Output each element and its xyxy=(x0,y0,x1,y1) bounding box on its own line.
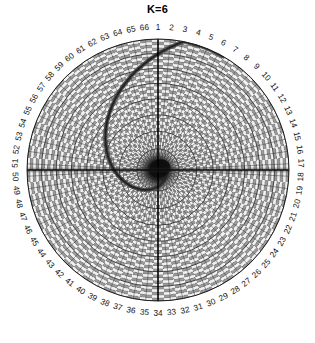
angular-tick-label: 2 xyxy=(169,23,175,32)
angular-tick-label: 17 xyxy=(296,158,305,168)
angular-tick-label: 12 xyxy=(276,92,289,105)
angular-tick-label: 29 xyxy=(217,291,230,303)
angular-tick-label: 56 xyxy=(28,92,41,105)
angular-tick-label: 43 xyxy=(44,257,57,270)
angular-tick-label: 57 xyxy=(35,80,48,93)
angular-tick-label: 52 xyxy=(11,144,21,155)
angular-tick-label: 30 xyxy=(205,297,217,309)
angular-tick-label: 6 xyxy=(219,38,228,48)
angular-tick-label: 39 xyxy=(86,291,99,303)
angular-tick-label: 50 xyxy=(10,172,19,182)
angular-tick-label: 64 xyxy=(112,27,124,38)
angular-tick-label: 62 xyxy=(86,37,99,49)
angular-tick-label: 65 xyxy=(126,24,137,35)
angular-tick-label: 55 xyxy=(22,104,34,116)
angular-tick-label: 63 xyxy=(99,31,111,43)
angular-tick-label: 46 xyxy=(22,223,34,235)
angular-tick-label: 40 xyxy=(74,284,87,297)
angular-tick-label: 66 xyxy=(139,23,149,33)
angular-tick-label: 42 xyxy=(53,267,66,280)
angular-tick-label: 24 xyxy=(268,246,281,259)
angular-tick-label: 31 xyxy=(193,301,205,312)
angular-tick-label: 9 xyxy=(252,62,262,72)
angular-tick-label: 49 xyxy=(11,185,21,196)
angular-tick-label: 14 xyxy=(287,117,299,129)
angular-tick-label: 37 xyxy=(112,302,124,313)
angular-tick-label: 5 xyxy=(207,32,215,42)
angular-tick-label: 32 xyxy=(180,305,191,316)
angular-tick-label: 20 xyxy=(292,198,303,209)
angular-tick-label: 11 xyxy=(268,81,281,94)
angular-tick-label: 36 xyxy=(126,305,137,316)
angular-tick-label: 21 xyxy=(287,211,299,223)
angular-tick-label: 13 xyxy=(282,105,294,117)
angular-tick-label: 1 xyxy=(156,23,161,32)
angular-tick-label: 51 xyxy=(10,158,19,168)
angular-tick-label: 47 xyxy=(17,211,29,223)
angular-tick-label: 38 xyxy=(99,297,111,309)
angular-tick-label: 7 xyxy=(231,45,240,55)
chart-title: K=6 xyxy=(0,2,315,16)
angular-tick-label: 10 xyxy=(260,70,273,83)
angular-tick-label: 16 xyxy=(294,145,304,156)
angular-tick-label: 60 xyxy=(63,51,76,64)
angular-tick-label: 53 xyxy=(14,130,25,141)
angular-tick-label: 58 xyxy=(44,70,57,83)
angular-tick-label: 35 xyxy=(139,307,149,317)
angular-tick-label: 45 xyxy=(28,235,41,248)
angular-tick-label: 22 xyxy=(282,223,294,235)
angular-tick-label: 27 xyxy=(240,276,253,289)
angular-tick-label: 44 xyxy=(35,247,48,260)
angular-tick-label: 33 xyxy=(167,307,177,317)
angular-tick-label: 25 xyxy=(260,257,273,270)
polar-chart-figure: K=6 12345678910 xyxy=(0,0,315,343)
angular-tick-label: 48 xyxy=(14,198,25,209)
angular-tick-label: 18 xyxy=(296,172,305,182)
angular-tick-label: 4 xyxy=(195,28,202,38)
angular-tick-label: 23 xyxy=(276,235,289,248)
angular-tick-label: 8 xyxy=(242,53,251,63)
angular-tick-label: 15 xyxy=(292,131,303,142)
angular-tick-label: 28 xyxy=(229,284,242,297)
angular-tick-label: 61 xyxy=(74,43,87,56)
angular-tick-label: 3 xyxy=(182,25,189,35)
angular-tick-label: 41 xyxy=(63,276,76,289)
angular-tick-label: 54 xyxy=(17,117,29,129)
angular-tick-label: 34 xyxy=(153,309,163,318)
angular-tick-label: 26 xyxy=(250,267,263,280)
angular-tick-label: 59 xyxy=(53,60,66,73)
angular-tick-label: 19 xyxy=(294,185,304,196)
polar-plot-svg: 1234567891011121314151617181920212223242… xyxy=(0,18,315,343)
polar-plot-area: 1234567891011121314151617181920212223242… xyxy=(0,18,315,343)
